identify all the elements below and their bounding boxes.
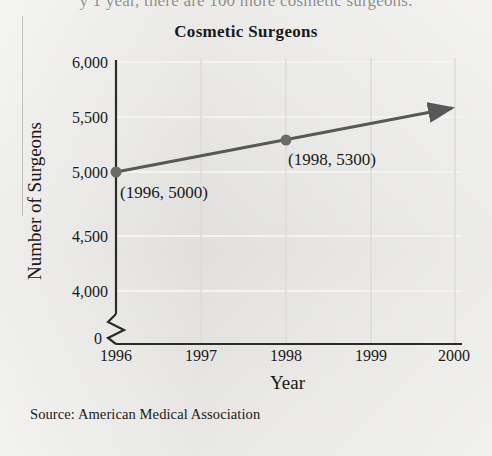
data-point-1996 — [111, 167, 122, 178]
annotation-1998-5300: (1998, 5300) — [288, 150, 376, 170]
data-point-1998 — [281, 135, 292, 146]
chart-figure: Number of Surgeons 6,000 5,500 5,000 4,5… — [0, 0, 492, 456]
y-axis-break-zigzag — [108, 314, 124, 344]
vertical-gridlines — [201, 58, 455, 344]
annotation-1996-5000: (1996, 5000) — [120, 183, 208, 203]
plot-canvas — [0, 0, 492, 456]
source-note: Source: American Medical Association — [30, 406, 260, 423]
horizontal-gridlines — [116, 62, 462, 291]
